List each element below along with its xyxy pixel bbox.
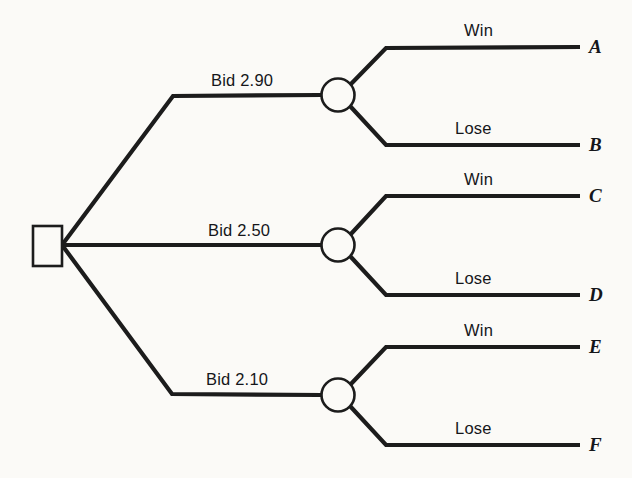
terminal-node-f: F bbox=[589, 435, 602, 454]
decision-tree-diagram: Bid 2.90 Bid 2.50 Bid 2.10 Win Lose Win … bbox=[0, 0, 632, 478]
branch-label-bid-290: Bid 2.90 bbox=[211, 72, 273, 89]
chance-node-bid-210[interactable] bbox=[322, 379, 355, 412]
terminal-node-a: A bbox=[589, 37, 602, 56]
chance-node-bid-250[interactable] bbox=[322, 229, 355, 262]
outcome-label-lose-f: Lose bbox=[455, 420, 492, 437]
outcome-path-win-e bbox=[350, 347, 580, 385]
outcome-label-lose-b: Lose bbox=[455, 120, 492, 137]
outcome-label-lose-d: Lose bbox=[455, 270, 492, 287]
terminal-node-c: C bbox=[589, 186, 602, 205]
branch-label-bid-250: Bid 2.50 bbox=[208, 222, 270, 239]
terminal-node-d: D bbox=[589, 285, 603, 304]
decision-node-square[interactable] bbox=[33, 226, 62, 266]
branch-path-bid-290 bbox=[62, 95, 322, 245]
chance-node-bid-290[interactable] bbox=[322, 79, 355, 112]
outcome-label-win-e: Win bbox=[464, 322, 493, 339]
outcome-label-win-a: Win bbox=[464, 22, 493, 39]
terminal-node-e: E bbox=[589, 337, 602, 356]
terminal-node-b: B bbox=[589, 135, 602, 154]
branch-path-bid-210 bbox=[62, 245, 322, 395]
tree-graphics bbox=[0, 0, 632, 478]
outcome-path-win-a bbox=[350, 47, 580, 85]
outcome-label-win-c: Win bbox=[464, 171, 493, 188]
branch-label-bid-210: Bid 2.10 bbox=[206, 371, 268, 388]
outcome-path-win-c bbox=[350, 196, 580, 235]
